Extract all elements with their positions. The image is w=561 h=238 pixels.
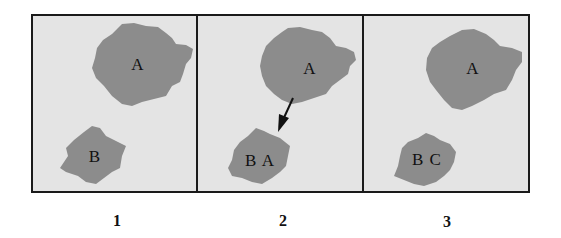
panel-3-label-a: A (466, 60, 479, 77)
panel-3-label-b: B C (412, 151, 442, 168)
diagram-art (0, 0, 561, 238)
panel-3-caption: 3 (443, 213, 451, 231)
panel-1-label-b: B (89, 148, 101, 165)
panel-1-caption: 1 (113, 212, 121, 230)
panel-2-label-a: A (303, 60, 316, 77)
panel-2-caption: 2 (279, 212, 287, 230)
panel-2-arrow (278, 98, 293, 132)
panel-2-label-b: B A (245, 152, 275, 169)
panel-1-label-a: A (131, 56, 144, 73)
